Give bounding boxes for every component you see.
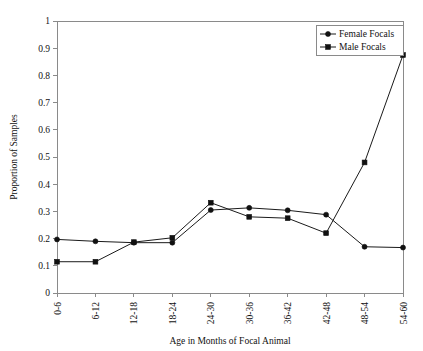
- data-point-marker: [170, 240, 175, 245]
- data-point-marker: [247, 214, 252, 219]
- series-line-male-focals: [57, 55, 403, 262]
- legend-marker-square-icon: [326, 45, 331, 50]
- y-tick-label: 0.9: [38, 44, 50, 54]
- y-tick-label: 1: [45, 16, 50, 26]
- y-tick-label: 0.1: [38, 261, 50, 271]
- x-tick-label: 54-60: [399, 302, 409, 324]
- chart-legend: Female FocalsMale Focals: [316, 25, 403, 55]
- data-point-marker: [285, 208, 290, 213]
- data-point-marker: [93, 239, 98, 244]
- data-point-marker: [208, 200, 213, 205]
- x-tick-label: 42-48: [322, 302, 332, 324]
- line-chart: 00.10.20.30.40.50.60.70.80.91 0-66-1212-…: [0, 0, 423, 351]
- data-point-marker: [324, 212, 329, 217]
- data-point-marker: [362, 244, 367, 249]
- y-axis-ticks: 00.10.20.30.40.50.60.70.80.91: [38, 16, 57, 298]
- data-point-marker: [170, 235, 175, 240]
- x-tick-label: 6-12: [91, 302, 101, 320]
- data-point-marker: [285, 216, 290, 221]
- series-line-female-focals: [57, 208, 403, 248]
- x-axis-title: Age in Months of Focal Animal: [169, 336, 290, 346]
- data-point-marker: [55, 237, 60, 242]
- data-point-marker: [55, 259, 60, 264]
- x-axis-ticks: 0-66-1212-1818-2424-3030-3636-4242-4848-…: [53, 293, 409, 324]
- legend-entry-label: Female Focals: [339, 29, 394, 39]
- data-point-marker: [208, 208, 213, 213]
- chart-figure: 00.10.20.30.40.50.60.70.80.91 0-66-1212-…: [0, 0, 423, 351]
- data-point-marker: [324, 231, 329, 236]
- legend-marker-circle-icon: [326, 32, 331, 37]
- y-tick-label: 0.4: [38, 180, 50, 190]
- data-point-marker: [247, 205, 252, 210]
- x-tick-label: 30-36: [245, 302, 255, 324]
- series-layer: [55, 53, 406, 265]
- x-tick-label: 18-24: [168, 302, 178, 324]
- y-tick-label: 0.6: [38, 125, 50, 135]
- y-tick-label: 0.8: [38, 71, 50, 81]
- y-tick-label: 0.5: [38, 152, 50, 162]
- data-point-marker: [93, 259, 98, 264]
- x-tick-label: 0-6: [53, 302, 63, 315]
- data-point-marker: [362, 160, 367, 165]
- plot-frame: [57, 21, 403, 293]
- x-tick-label: 48-54: [360, 302, 370, 324]
- y-tick-label: 0: [45, 288, 50, 298]
- y-tick-label: 0.7: [38, 98, 50, 108]
- y-tick-label: 0.2: [38, 234, 50, 244]
- legend-entry-label: Male Focals: [339, 42, 386, 52]
- x-tick-label: 24-30: [206, 302, 216, 324]
- x-tick-label: 12-18: [129, 302, 139, 324]
- x-tick-label: 36-42: [283, 302, 293, 324]
- y-axis-title: Proportion of Samples: [9, 114, 19, 200]
- data-point-marker: [131, 240, 136, 245]
- data-point-marker: [401, 245, 406, 250]
- y-tick-label: 0.3: [38, 207, 50, 217]
